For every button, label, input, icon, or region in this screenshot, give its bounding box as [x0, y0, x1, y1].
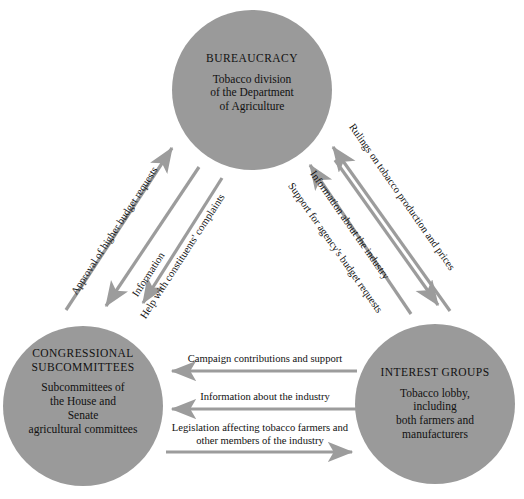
node-circle-bureaucracy[interactable]: [172, 10, 332, 170]
edge-label-information-about-the-industry-bottom: Information about the industry: [172, 390, 358, 403]
iron-triangle-diagram: BUREAUCRACY Tobacco division of the Depa…: [0, 0, 524, 499]
node-circle-congressional-subcommittees[interactable]: [3, 326, 163, 486]
node-circle-interest-groups[interactable]: [355, 324, 515, 484]
edge-label-campaign-contributions-and-support: Campaign contributions and support: [172, 352, 358, 365]
edge-label-legislation-affecting-tobacco-farmers: Legislation affecting tobacco farmers an…: [160, 421, 360, 447]
